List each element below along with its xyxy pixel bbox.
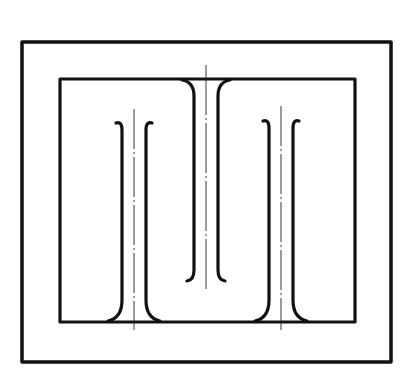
frame-section-drawing	[0, 0, 410, 378]
outer-frame	[22, 42, 391, 362]
diagram-canvas	[0, 0, 410, 378]
left-rib-left-wall	[108, 123, 122, 321]
left-rib	[108, 109, 160, 330]
right-rib-right-wall	[293, 121, 307, 321]
right-rib-left-wall	[255, 121, 269, 321]
inner-frame	[60, 79, 355, 322]
right-rib	[255, 106, 307, 330]
center-rib-left-wall	[182, 80, 194, 281]
left-rib-right-wall	[146, 123, 160, 321]
center-rib-right-wall	[218, 80, 230, 281]
center-rib	[182, 65, 230, 290]
